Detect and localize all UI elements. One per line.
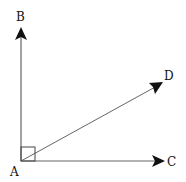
point-label-a: A [9, 165, 19, 179]
point-label-d: D [164, 69, 174, 83]
arrowhead-d-icon [149, 82, 163, 94]
point-label-b: B [16, 10, 25, 24]
ray-ad [21, 86, 157, 161]
point-label-c: C [167, 155, 176, 169]
angle-diagram: B A C D [0, 0, 186, 182]
